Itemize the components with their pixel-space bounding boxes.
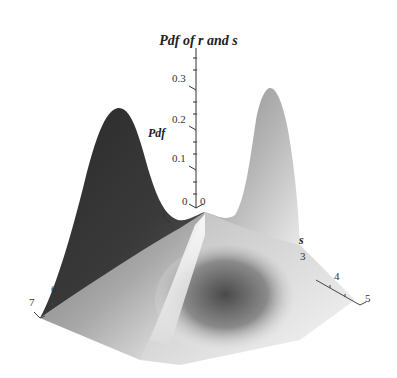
z-tick-0-2: 0.2: [172, 113, 186, 125]
r-tick-1: 1: [161, 208, 167, 220]
s-tick-3: 3: [300, 250, 306, 262]
s-axis-label: s: [299, 233, 304, 248]
z-axis-label: Pdf: [148, 126, 165, 141]
chart-title: Pdf of r and s: [0, 33, 397, 49]
r-tick-7: 7: [29, 296, 35, 308]
z-tick-0-3: 0.3: [172, 72, 186, 84]
s-tick-4: 4: [334, 270, 340, 282]
z-tick-0-1: 0.1: [172, 152, 186, 164]
origin-s-label: 0: [200, 195, 206, 207]
s-tick-5: 5: [365, 292, 371, 304]
z-tick-0: 0: [182, 195, 188, 207]
surface-chart: Pdf of r and s Pdf 0.3 0.2 0.1 0 0 1 s 3…: [0, 0, 397, 378]
surface-plot: [0, 0, 397, 378]
r-tick-6: 6: [51, 283, 57, 295]
